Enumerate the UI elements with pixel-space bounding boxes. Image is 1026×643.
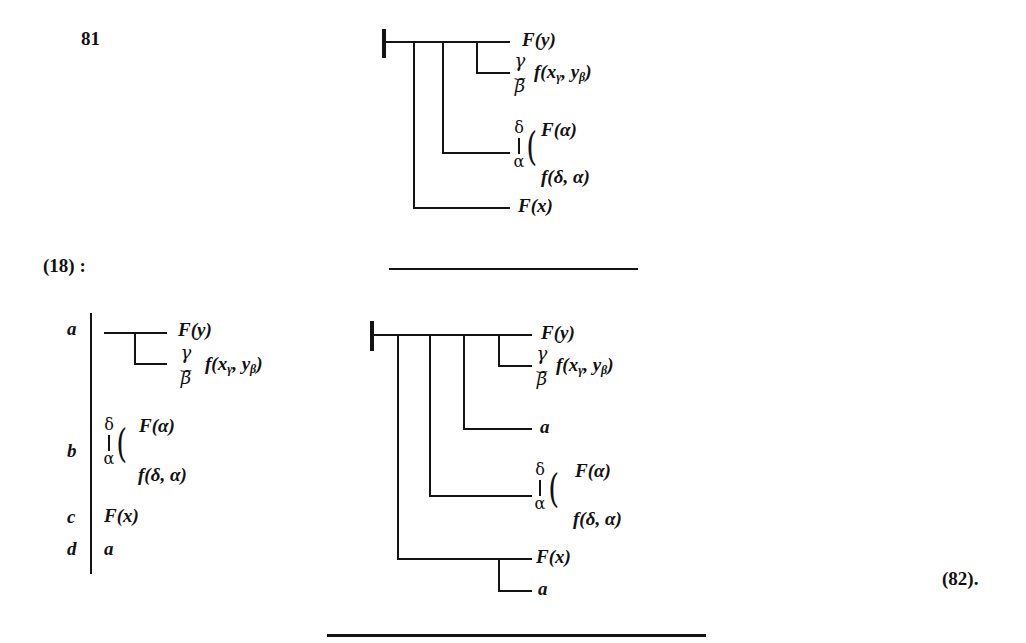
y-part: , y — [583, 354, 601, 375]
grouping-paren: ( — [526, 126, 537, 166]
condition-stroke — [442, 152, 510, 154]
condition-stroke — [397, 334, 399, 560]
formula-a: a — [538, 578, 548, 600]
premise-separator-bar — [90, 313, 92, 574]
condition-stroke — [498, 334, 500, 367]
condition-stroke — [429, 334, 431, 497]
close-paren: ) — [607, 354, 613, 375]
formula-f-xy: f(xγ, yβ) — [534, 62, 592, 83]
alpha-symbol: α — [512, 154, 526, 170]
condition-stroke — [463, 428, 532, 430]
page-number: 81 — [81, 28, 100, 50]
content-stroke — [372, 334, 532, 336]
condition-stroke — [476, 72, 510, 74]
generality-quantifier: δ α — [533, 462, 547, 512]
beta-symbol: β — [175, 369, 197, 387]
alpha-symbol: α — [533, 496, 547, 512]
concavity-notation: γ ‿ β — [509, 52, 531, 95]
condition-stroke — [498, 590, 532, 592]
concavity-notation: γ ‿ β — [531, 345, 553, 388]
divider-line — [389, 268, 638, 270]
f-x-part: f(x — [556, 354, 578, 375]
condition-stroke — [442, 41, 444, 154]
formula-a: a — [540, 416, 550, 438]
close-paren: ) — [256, 353, 262, 374]
content-stroke — [384, 41, 510, 43]
premise-label-b: b — [67, 440, 77, 462]
formula-F-alpha: F(α) — [139, 416, 175, 435]
generality-quantifier: δ α — [512, 120, 526, 170]
formula-F-alpha: F(α) — [575, 461, 611, 480]
close-paren: ) — [585, 61, 591, 82]
condition-stroke — [134, 363, 167, 365]
delta-symbol: δ — [533, 462, 547, 480]
y-part: , y — [232, 353, 250, 374]
formula-f-xy: f(xγ, yβ) — [205, 354, 263, 375]
f-x-part: f(x — [534, 61, 556, 82]
result-reference: (82). — [942, 568, 978, 590]
generality-quantifier: δ α — [102, 417, 116, 467]
delta-symbol: δ — [102, 417, 116, 435]
grouping-paren: ( — [548, 468, 559, 508]
formula-F-x: F(x) — [518, 196, 553, 215]
formula-F-x: F(x) — [104, 506, 139, 525]
alpha-symbol: α — [102, 451, 116, 467]
formula-F-alpha: F(α) — [541, 120, 577, 139]
formula-f-delta-alpha: f(δ, α) — [138, 465, 187, 484]
divider-line — [327, 634, 706, 637]
formula-a: a — [104, 538, 114, 560]
judgment-stroke — [382, 29, 386, 58]
formula-f-delta-alpha: f(δ, α) — [541, 167, 590, 186]
delta-symbol: δ — [512, 120, 526, 138]
judgment-stroke — [370, 321, 374, 351]
formula-F-x: F(x) — [536, 547, 571, 566]
premise-label-d: d — [67, 538, 77, 560]
condition-stroke — [476, 41, 478, 74]
condition-stroke — [397, 558, 532, 560]
beta-symbol: β — [531, 370, 553, 388]
condition-stroke — [134, 332, 136, 365]
formula-F-y: F(y) — [541, 323, 575, 342]
premise-label-c: c — [67, 506, 75, 528]
condition-stroke — [498, 365, 532, 367]
concavity-notation: γ ‿ β — [175, 344, 197, 387]
formula-f-delta-alpha: f(δ, α) — [573, 509, 622, 528]
equation-reference: (18) : — [43, 255, 86, 277]
condition-stroke — [429, 495, 532, 497]
f-x-part: f(x — [205, 353, 227, 374]
condition-stroke — [413, 207, 510, 209]
condition-stroke — [463, 334, 465, 430]
formula-f-xy: f(xγ, yβ) — [556, 355, 614, 376]
beta-symbol: β — [509, 77, 531, 95]
premise-label-a: a — [67, 318, 77, 340]
grouping-paren: ( — [116, 423, 127, 463]
formula-F-y: F(y) — [178, 320, 212, 339]
formula-F-y: F(y) — [522, 30, 556, 49]
condition-stroke — [413, 41, 415, 209]
y-part: , y — [561, 61, 579, 82]
condition-stroke — [498, 558, 500, 592]
